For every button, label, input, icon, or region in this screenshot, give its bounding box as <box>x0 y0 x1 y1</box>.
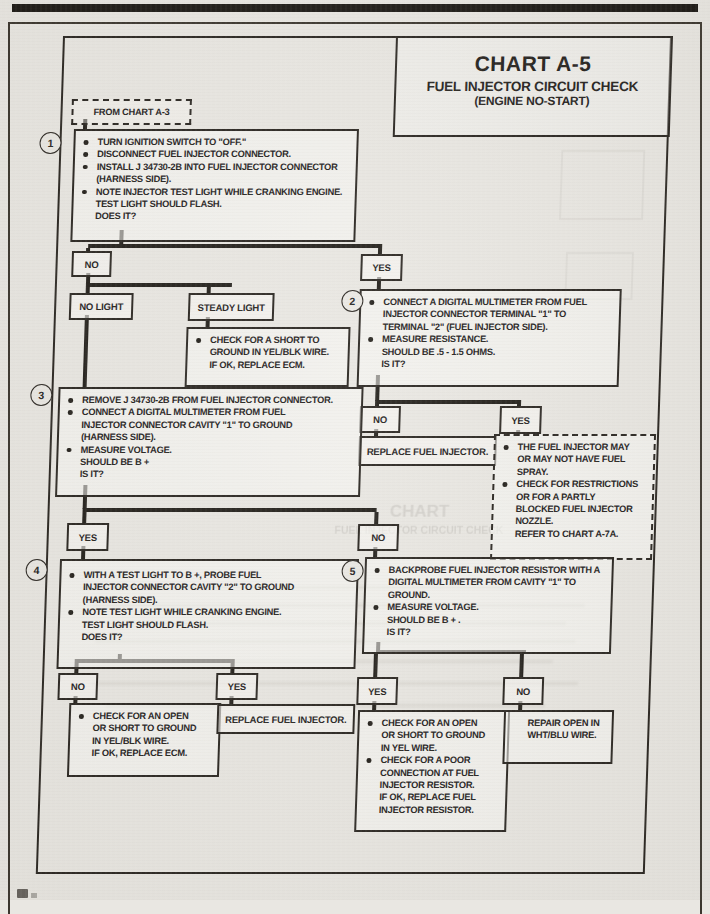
flow-text-line: IS IT? <box>364 358 614 370</box>
step-number-1: 1 <box>39 132 62 154</box>
flow-text-line: OR MAY NOT HAVE FUEL <box>500 453 650 465</box>
flow-text-line: CHECK FOR A POOR <box>363 754 503 766</box>
flow-text-line: INSTALL J 34730-2B INTO FUEL INJECTOR CO… <box>80 161 353 173</box>
connector <box>375 400 521 404</box>
flow-text-line: CHECK FOR A SHORT TO <box>193 334 345 346</box>
chart-subtitle: FUEL INJECTOR CIRCUIT CHECK <box>396 79 669 94</box>
flow-text-line: WHT/BLU WIRE. <box>510 729 608 741</box>
flow-text-line: WITH A TEST LIGHT TO B +, PROBE FUEL <box>66 569 353 581</box>
fuel-spray-note-box: THE FUEL INJECTOR MAYOR MAY NOT HAVE FUE… <box>490 434 656 560</box>
flow-text-line: CONNECT A DIGITAL MULTIMETER FROM FUEL <box>366 296 616 308</box>
open-yel-result-box: CHECK FOR AN OPENOR SHORT TO GROUNDIN YE… <box>354 710 510 832</box>
flow-text-line: CHECK FOR AN OPEN <box>76 710 216 722</box>
flow-text-line: SPRAY. <box>500 466 650 478</box>
flow-text-line: NOTE INJECTOR TEST LIGHT WHILE CRANKING … <box>79 186 352 198</box>
flow-text-line: INJECTOR CONNECTOR TERMINAL "1" TO <box>366 308 616 320</box>
flow-text-line: IS IT? <box>63 468 356 480</box>
flow-text-line: IS IT? <box>369 626 606 638</box>
chart-title-box: CHART A-5 FUEL INJECTOR CIRCUIT CHECK (E… <box>392 36 672 137</box>
flow-text-line: GROUND. <box>371 589 608 601</box>
flow-text-line: INJECTOR CONNECTOR CAVITY "2" TO GROUND <box>66 581 353 593</box>
replace-fuel-injector-box-2: REPLACE FUEL INJECTOR. <box>216 704 355 734</box>
decision-no-2: NO <box>359 406 401 433</box>
flow-text-line: MEASURE RESISTANCE. <box>365 333 615 345</box>
steady-light-result-box: CHECK FOR A SHORT TOGROUND IN YEL/BLK WI… <box>185 327 351 387</box>
decision-no-1: NO <box>71 251 112 277</box>
flow-text-line: BLOCKED FUEL INJECTOR <box>498 503 648 515</box>
connector <box>88 244 382 248</box>
flow-text-line: CHECK FOR AN OPEN <box>364 717 504 729</box>
flow-text-line: CHECK FOR RESTRICTIONS <box>499 478 649 490</box>
flow-text-line: REFER TO CHART A-7A. <box>498 528 648 540</box>
flow-text-line: DIGITAL MULTIMETER FROM CAVITY "1" TO <box>371 576 608 588</box>
flow-text-line: INJECTOR CONNECTOR CAVITY "1" TO GROUND <box>64 419 357 431</box>
flow-text-line: IN YEL WIRE. <box>364 742 504 754</box>
decision-no-3: NO <box>357 524 399 551</box>
flow-text-line: MEASURE VOLTAGE. <box>370 601 607 613</box>
step-5-box: BACKPROBE FUEL INJECTOR RESISTOR WITH AD… <box>362 557 614 654</box>
flow-text-line: DOES IT? <box>64 631 351 643</box>
flow-text-line: MEASURE VOLTAGE. <box>63 444 356 456</box>
step-3-box: REMOVE J 34730-2B FROM FUEL INJECTOR CON… <box>55 387 364 497</box>
flow-text-line: TEST LIGHT SHOULD FLASH. <box>65 619 352 631</box>
flow-text-line: DISCONNECT FUEL INJECTOR CONNECTOR. <box>80 148 353 160</box>
flow-text-line: TEST LIGHT SHOULD FLASH. <box>78 198 351 210</box>
scan-artifact <box>31 893 37 898</box>
flow-text-line: SHOULD BE B + <box>63 456 356 468</box>
flow-text-line: NOZZLE. <box>498 515 648 527</box>
decision-no-4: NO <box>57 673 98 700</box>
flow-text-line: (HARNESS SIDE). <box>65 594 352 606</box>
connector <box>519 654 524 678</box>
flow-text-line: NOTE TEST LIGHT WHILE CRANKING ENGINE. <box>65 606 352 618</box>
decision-yes-2: YES <box>499 406 542 434</box>
decision-yes-3: YES <box>66 523 109 551</box>
flow-text-line: IN YEL/BLK WIRE. <box>75 735 215 747</box>
chart-title: CHART A-5 <box>396 52 670 76</box>
step-1-box: TURN IGNITION SWITCH TO "OFF."DISCONNECT… <box>70 129 359 242</box>
entry-node-from-chart-a3: FROM CHART A-3 <box>71 99 192 125</box>
step-2-box: CONNECT A DIGITAL MULTIMETER FROM FUELIN… <box>357 289 622 387</box>
flowchart-frame: CHART FUEL INJECTOR CIRCUIT CHECK CHART … <box>36 36 672 874</box>
flow-text-line: IF OK, REPLACE ECM. <box>192 359 344 371</box>
flow-text-line: SHOULD BE B + . <box>370 614 607 626</box>
flow-text-line: OR SHORT TO GROUND <box>75 722 215 734</box>
flow-text-line: OR SHORT TO GROUND <box>364 729 504 741</box>
decision-yes-1: YES <box>360 254 403 281</box>
connector <box>83 315 89 388</box>
decision-no-light: NO LIGHT <box>69 293 134 320</box>
page-top-rule <box>12 4 698 12</box>
flow-text-line: BACKPROBE FUEL INJECTOR RESISTOR WITH A <box>371 564 608 576</box>
flow-text-line: TERMINAL "2" (FUEL INJECTOR SIDE). <box>365 321 615 333</box>
chart-subtitle-2: (ENGINE NO-START) <box>395 94 668 108</box>
flow-text-line: (HARNESS SIDE). <box>79 173 352 185</box>
flow-text-line: CONNECTION AT FUEL <box>363 767 503 779</box>
step-number-4: 4 <box>25 559 48 581</box>
step-number-5: 5 <box>341 560 364 582</box>
flow-text-line: IF OK, REPLACE FUEL <box>362 791 502 803</box>
open-yelblk-result-box: CHECK FOR AN OPENOR SHORT TO GROUNDIN YE… <box>67 703 221 777</box>
connector <box>83 508 377 512</box>
decision-yes-5: YES <box>356 677 398 705</box>
replace-fuel-injector-box-1: REPLACE FUEL INJECTOR. <box>358 436 497 466</box>
flow-text-line: REPAIR OPEN IN <box>510 717 608 729</box>
flow-text-line: DOES IT? <box>78 210 351 222</box>
flow-text-line: IF OK, REPLACE ECM. <box>75 747 215 759</box>
flow-text-line: SHOULD BE .5 - 1.5 OHMS. <box>365 346 615 358</box>
flow-text-line: REMOVE J 34730-2B FROM FUEL INJECTOR CON… <box>65 394 358 406</box>
flow-text-line: GROUND IN YEL/BLK WIRE. <box>193 346 345 358</box>
flow-text-line: CONNECT A DIGITAL MULTIMETER FROM FUEL <box>65 406 358 418</box>
flow-text-line: OR FOR A PARTLY <box>499 491 649 503</box>
flow-text-line: INJECTOR RESISTOR. <box>362 779 502 791</box>
repair-whtblu-result-box: REPAIR OPEN INWHT/BLU WIRE. <box>502 710 614 764</box>
flow-text-line: TURN IGNITION SWITCH TO "OFF." <box>80 136 353 148</box>
step-4-box: WITH A TEST LIGHT TO B +, PROBE FUELINJE… <box>56 559 359 669</box>
decision-yes-4: YES <box>215 673 258 700</box>
flow-text-line: INJECTOR RESISTOR. <box>362 804 502 816</box>
scan-artifact <box>17 889 28 898</box>
decision-no-5: NO <box>502 677 544 705</box>
decision-steady-light: STEADY LIGHT <box>188 293 275 321</box>
flow-text-line: THE FUEL INJECTOR MAY <box>500 441 650 453</box>
flow-text-line: (HARNESS SIDE). <box>64 431 357 443</box>
connector <box>373 654 378 678</box>
